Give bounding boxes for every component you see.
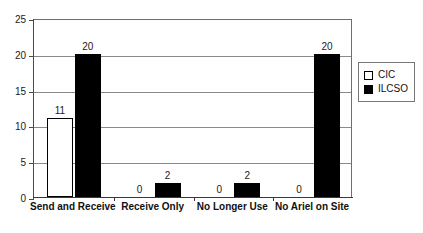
bar-value-label: 20 (322, 42, 333, 52)
chart-legend: CIC ILCSO (358, 62, 415, 102)
y-tick-label: 10 (15, 122, 26, 132)
category-label: No Ariel on Site (275, 201, 349, 213)
category-label: Receive Only (121, 201, 184, 213)
category-label: Send and Receive (30, 201, 116, 213)
legend-label-ilcso: ILCSO (378, 84, 408, 94)
bar-value-label: 2 (165, 171, 171, 181)
legend-item-ilcso: ILCSO (364, 82, 408, 96)
hollow-square-icon (364, 71, 373, 80)
plot-area: 0510152025 11000202220 (33, 19, 352, 198)
y-tick-label: 25 (15, 15, 26, 25)
bar-ilcso (314, 54, 340, 197)
bars-layer: 11000202220 (34, 20, 351, 197)
bar-value-label: 0 (217, 185, 223, 195)
filled-square-icon (364, 85, 373, 94)
bar-chart: 0510152025 11000202220 Send and ReceiveR… (0, 0, 423, 233)
category-separator-tick (194, 197, 195, 201)
category-label: No Longer Use (197, 201, 268, 213)
bar-value-label: 2 (245, 171, 251, 181)
bar-ilcso (75, 54, 101, 197)
bar-value-label: 0 (296, 185, 302, 195)
bar-value-label: 20 (82, 42, 93, 52)
y-tick-label: 0 (20, 194, 26, 204)
legend-item-cic: CIC (364, 68, 408, 82)
bar-value-label: 0 (137, 185, 143, 195)
y-tick-mark (29, 199, 34, 200)
bar-ilcso (234, 183, 260, 197)
bar-ilcso (155, 183, 181, 197)
y-tick-label: 5 (20, 158, 26, 168)
y-tick-label: 15 (15, 87, 26, 97)
legend-label-cic: CIC (378, 70, 395, 80)
y-tick-label: 20 (15, 51, 26, 61)
bar-value-label: 11 (55, 106, 65, 116)
bar-cic (47, 118, 73, 197)
